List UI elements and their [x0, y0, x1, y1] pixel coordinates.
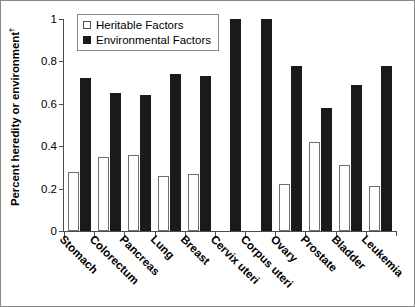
y-axis-tick-mark: [59, 231, 63, 232]
y-axis-tick-mark: [59, 19, 63, 20]
x-axis-tick-mark: [396, 231, 397, 236]
bar-group: [336, 19, 366, 231]
bar-environmental: [170, 74, 181, 231]
x-axis-tick-label: Corpus uteri: [239, 233, 296, 290]
y-axis-tick-label: 0.4: [41, 140, 57, 152]
x-axis-tick-label: Leukemia: [359, 233, 405, 279]
filled-square-icon: [83, 36, 91, 44]
y-axis-tick-label: 0.8: [41, 55, 57, 67]
bar-heritable: [158, 176, 169, 231]
y-axis-title-text: Percent heredity or environment: [9, 32, 21, 206]
bar-environmental: [381, 66, 392, 231]
bar-group: [275, 19, 305, 231]
legend-item-label: Heritable Factors: [96, 19, 184, 31]
bar-group: [305, 19, 335, 231]
legend-item: Heritable Factors: [83, 17, 211, 32]
y-axis-tick-mark: [59, 146, 63, 147]
y-axis-tick-mark: [59, 104, 63, 105]
chart-legend: Heritable FactorsEnvironmental Factors: [77, 14, 219, 51]
x-axis-tick-label: Lung: [148, 233, 176, 261]
chart-figure: Percent heredity or environment† 00.20.4…: [0, 0, 415, 307]
bar-heritable: [68, 172, 79, 231]
bar-environmental: [200, 76, 211, 231]
bar-environmental: [321, 108, 332, 231]
bar-heritable: [279, 184, 290, 231]
x-axis-tick-labels: StomachColorectumPancreasLungBreastCervi…: [64, 233, 396, 307]
y-axis-title: Percent heredity or environment†: [7, 28, 21, 206]
x-axis-tick-label: Breast: [178, 233, 212, 267]
y-axis-tick-label: 0: [51, 225, 57, 237]
bar-environmental: [291, 66, 302, 231]
bar-group: [245, 19, 275, 231]
bar-heritable: [188, 174, 199, 231]
open-square-icon: [83, 21, 91, 29]
bar-environmental: [140, 95, 151, 231]
legend-item: Environmental Factors: [83, 32, 211, 47]
y-axis-tick-label: 0.6: [41, 98, 57, 110]
bar-heritable: [309, 142, 320, 231]
bar-environmental: [261, 19, 272, 231]
bar-environmental: [110, 93, 121, 231]
y-axis-tick-label: 0.2: [41, 183, 57, 195]
bar-group: [215, 19, 245, 231]
bar-heritable: [369, 186, 380, 231]
y-axis-title-container: Percent heredity or environment†: [1, 1, 27, 233]
y-axis-tick-label: 1: [51, 13, 57, 25]
bar-environmental: [351, 85, 362, 231]
y-axis-title-superscript: †: [7, 28, 16, 32]
y-axis-tick-mark: [59, 189, 63, 190]
bar-heritable: [128, 155, 139, 231]
bar-heritable: [339, 165, 350, 231]
legend-item-label: Environmental Factors: [96, 34, 211, 46]
x-axis-line: [63, 231, 396, 232]
bar-group: [366, 19, 396, 231]
bar-environmental: [230, 19, 241, 231]
bar-environmental: [80, 78, 91, 231]
bar-heritable: [98, 157, 109, 231]
y-axis-tick-mark: [59, 61, 63, 62]
